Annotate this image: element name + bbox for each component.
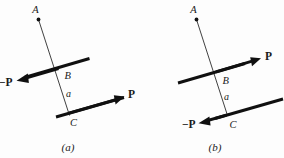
panel-b-line-AC <box>197 20 228 116</box>
panel-b-vector-upper-shaft <box>216 61 253 72</box>
panel-b-vector-upper-label: P <box>265 50 272 62</box>
panel-b-vector-lower-arrowhead <box>199 116 211 125</box>
panel-a-point-A-dot <box>37 18 41 22</box>
panel-a-vector-lower-shaft <box>69 99 117 113</box>
panel-a-vector-upper-shaft <box>24 69 59 79</box>
panel-a-label-C: C <box>70 117 78 128</box>
panel-a-caption: (a) <box>62 141 75 154</box>
panel-b-caption: (b) <box>209 141 222 154</box>
panel-a-vector-lower-arrowhead <box>114 95 125 104</box>
panel-b: A P B a −P C (b) <box>178 4 283 155</box>
panel-b-vector-upper-arrowhead <box>250 57 261 66</box>
panel-a-label-B: B <box>65 70 72 81</box>
force-couple-diagram: A −P B a P C (a) <box>0 0 284 158</box>
figure-container: A −P B a P C (a) <box>0 0 284 158</box>
panel-a-vector-lower-label: P <box>128 88 135 100</box>
panel-b-label-B: B <box>223 75 230 86</box>
panel-b-label-C: C <box>230 119 238 130</box>
panel-b-vector-lower-label: −P <box>182 118 196 130</box>
panel-a-vector-upper-label: −P <box>0 76 13 88</box>
panel-b-label-A: A <box>189 4 197 15</box>
panel-b-label-a: a <box>224 91 229 102</box>
panel-a-vector-upper-arrowhead <box>17 74 29 83</box>
panel-a-label-A: A <box>31 4 39 15</box>
panel-a-label-a: a <box>66 88 71 99</box>
panel-b-point-A-dot <box>195 18 199 22</box>
panel-a: A −P B a P C (a) <box>0 4 135 155</box>
